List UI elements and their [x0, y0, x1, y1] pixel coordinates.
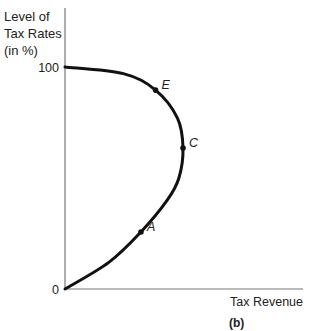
y-tick-label-0: 0	[52, 283, 59, 297]
point-e-label: E	[162, 78, 171, 92]
point-a-marker	[138, 229, 144, 235]
point-c-marker	[180, 145, 186, 151]
x-axis-label: Tax Revenue	[230, 295, 303, 309]
y-tick-labels: 0100	[38, 61, 59, 297]
y-tick-label-100: 100	[38, 61, 59, 75]
laffer-curve-line	[65, 67, 183, 289]
point-e-marker	[153, 87, 159, 93]
point-a-label: A	[146, 220, 155, 234]
figure-caption: (b)	[229, 316, 244, 330]
point-c-label: C	[189, 136, 199, 150]
laffer-curve-chart: 0100 Tax Revenue ACE	[0, 0, 310, 331]
